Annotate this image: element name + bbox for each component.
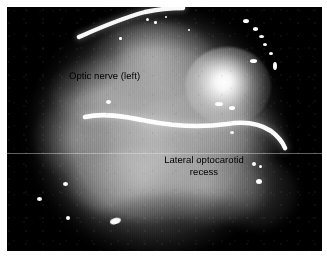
image-page: Optic nerve (left) Lateral optocarotid r…: [0, 0, 327, 258]
endoscopic-field-of-view: [7, 7, 322, 251]
photo-frame: [7, 7, 322, 251]
